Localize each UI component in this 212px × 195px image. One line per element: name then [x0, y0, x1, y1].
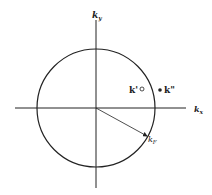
ky-label: ky: [92, 10, 102, 22]
k-prime-point-open: [140, 87, 144, 91]
kf-label: kF: [148, 135, 157, 145]
kf-vector: [96, 108, 147, 136]
kx-label: kx: [194, 104, 204, 115]
k-double-prime-label: k": [164, 85, 175, 95]
k-double-prime-point-filled: [158, 88, 162, 92]
k-prime-label: k': [129, 85, 138, 95]
fermi-sphere-diagram: ky kx k' k" kF: [0, 0, 212, 195]
